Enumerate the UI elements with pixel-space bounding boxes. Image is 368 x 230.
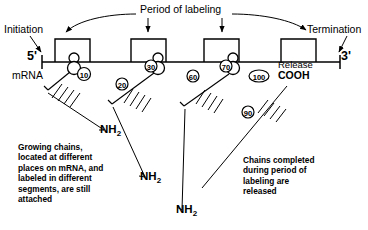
five-prime-label: 5' [27, 50, 37, 64]
amino-terminus-label-2: NH2 [140, 170, 161, 185]
marker-30-value: 30 [145, 63, 157, 72]
caption-released-chains: Chains completed during period of labeli… [243, 155, 314, 197]
marker-10-value: 10 [78, 71, 90, 80]
labeling-brackets [55, 39, 316, 62]
marker-100-value: 100 [249, 73, 269, 82]
marker-60-value: 60 [187, 73, 199, 82]
chain-3-label-hatches [196, 90, 223, 113]
three-prime-label: 3' [341, 50, 351, 64]
amino-terminus-label-3: NH2 [176, 203, 197, 218]
caption-attached-chains: Growing chains, located at different pla… [18, 142, 103, 205]
nh2-sub-1: 2 [117, 129, 121, 138]
nh2-text-3: NH [176, 203, 193, 215]
nh2-text-1: NH [100, 123, 117, 135]
nh2-sub-2: 2 [157, 176, 161, 185]
termination-label: Termination [307, 24, 361, 35]
amino-terminus-label-1: NH2 [100, 123, 121, 138]
nascent-chain-3 [177, 74, 229, 210]
mrna-label: mRNA [12, 70, 43, 81]
marker-90-value: 90 [242, 109, 254, 118]
chain-1-label-hatches [52, 84, 80, 107]
nh2-text-2: NH [140, 170, 157, 182]
cooh-label: COOH [278, 70, 310, 81]
nascent-chain-1 [44, 72, 104, 130]
period-of-labeling-leaders [66, 14, 306, 32]
period-of-labeling-label: Period of labeling [140, 4, 221, 15]
nh2-sub-3: 2 [193, 209, 197, 218]
initiation-label: Initiation [4, 24, 43, 35]
marker-20-value: 20 [116, 81, 128, 90]
residue-markers [78, 60, 270, 118]
marker-70-value: 70 [220, 63, 232, 72]
diagram-root: Period of labeling Initiation Terminatio… [0, 0, 368, 230]
